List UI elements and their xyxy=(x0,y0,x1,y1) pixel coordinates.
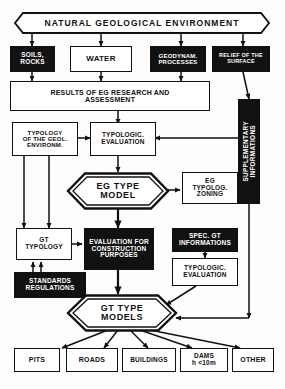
diagram-canvas: NATURAL GEOLOGICAL ENVIRONMENT SOILS, RO… xyxy=(0,0,285,389)
node-water: WATER xyxy=(70,46,132,72)
node-label-relief-of-the-surface: RELIEF OF THE SURFACE xyxy=(219,53,263,64)
node-natural-geological-environment: NATURAL GEOLOGICAL ENVIRONMENT xyxy=(14,12,270,34)
node-label-other: OTHER xyxy=(240,356,266,363)
node-results-of-eg-research: RESULTS OF EG RESEARCH AND ASSESSMENT xyxy=(10,81,210,111)
node-geodynamic-processes: GEODYNAM. PROCESSES xyxy=(150,46,206,72)
node-gt-typology: GT TYPOLOGY xyxy=(16,228,72,260)
node-label-eg-typolog-zoning: EG TYPOLOG. ZONING xyxy=(192,178,227,198)
node-output-dams: DAMS h <10m xyxy=(180,348,228,372)
node-soils-rocks: SOILS, ROCKS xyxy=(10,46,55,72)
node-typologic-evaluation-bottom: TYPOLOGIC. EVALUATION xyxy=(172,258,238,286)
node-label-geodynamic-processes: GEODYNAM. PROCESSES xyxy=(158,53,197,65)
node-label-spec-gt-informations: SPEC. GT INFORMATIONS xyxy=(179,233,231,246)
node-typology-of-the-geological-environment: TYPOLOGY OF THE GEOL. ENVIRONM. xyxy=(12,122,78,156)
node-label-dams: DAMS h <10m xyxy=(192,353,216,366)
node-relief-of-the-surface: RELIEF OF THE SURFACE xyxy=(212,46,270,72)
node-supplementary-informations: SUPPLEMENTARY INFORMATIONS xyxy=(238,99,260,204)
node-spec-gt-informations: SPEC. GT INFORMATIONS xyxy=(172,228,238,252)
node-label-gt-type-models: GT TYPE MODELS xyxy=(66,294,178,332)
node-label-soils-rocks: SOILS, ROCKS xyxy=(20,52,44,65)
node-label-standards-regulations: STANDARDS REGULATIONS xyxy=(25,278,74,291)
node-output-other: OTHER xyxy=(232,348,274,372)
node-label-gt-typology: GT TYPOLOGY xyxy=(25,237,63,250)
node-label-buildings: BUILDINGS xyxy=(130,357,168,364)
node-label-banner: NATURAL GEOLOGICAL ENVIRONMENT xyxy=(14,12,270,34)
node-label-typologic-evaluation-top: TYPOLOGIC. EVALUATION xyxy=(101,132,144,145)
node-label-typologic-evaluation-bottom: TYPOLOGIC. EVALUATION xyxy=(183,265,226,278)
node-label-pits: PITS xyxy=(29,356,45,363)
node-typologic-evaluation-top: TYPOLOGIC. EVALUATION xyxy=(90,122,156,156)
node-output-roads: ROADS xyxy=(66,348,118,372)
node-label-typology-geol-env: TYPOLOGY OF THE GEOL. ENVIRONM. xyxy=(23,130,68,149)
node-output-buildings: BUILDINGS xyxy=(122,348,176,372)
node-label-evaluation-for-construction-purposes: EVALUATION FOR CONSTRUCTION PURPOSES xyxy=(89,239,149,259)
node-label-supplementary-informations: SUPPLEMENTARY INFORMATIONS xyxy=(242,121,257,181)
node-label-eg-type-model: EG TYPE MODEL xyxy=(66,172,170,210)
node-eg-typolog-zoning: EG TYPOLOG. ZONING xyxy=(182,172,238,204)
node-label-roads: ROADS xyxy=(79,356,105,363)
node-output-pits: PITS xyxy=(14,348,60,372)
node-eg-type-model: EG TYPE MODEL xyxy=(66,172,170,210)
node-evaluation-for-construction-purposes: EVALUATION FOR CONSTRUCTION PURPOSES xyxy=(84,228,154,270)
node-label-water: WATER xyxy=(86,55,115,63)
node-label-results-of-eg-research: RESULTS OF EG RESEARCH AND ASSESSMENT xyxy=(50,89,169,103)
node-gt-type-models: GT TYPE MODELS xyxy=(66,294,178,332)
